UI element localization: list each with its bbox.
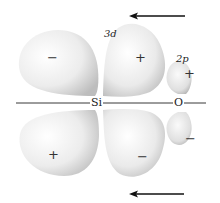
- 3d-orbital-label: 3d: [104, 29, 117, 39]
- sign-bottom-right: −: [137, 150, 148, 163]
- d-lobe-bottom-left: [19, 110, 99, 176]
- sign-p-bottom: −: [185, 132, 196, 145]
- top-arrow-icon: [129, 13, 185, 20]
- sign-p-top: +: [184, 67, 195, 80]
- d-lobe-bottom-right: [103, 109, 165, 177]
- sign-bottom-left: +: [48, 148, 59, 161]
- sign-top-left: −: [47, 51, 58, 64]
- 2p-orbital-label: 2p: [176, 54, 189, 64]
- pi-bonding-diagram: Si O 3d 2p − + + − + −: [0, 0, 220, 203]
- bottom-arrow-icon: [129, 191, 184, 198]
- o-atom-label: O: [173, 97, 184, 108]
- sign-top-right: +: [135, 51, 146, 64]
- si-atom-label: Si: [90, 97, 103, 108]
- d-lobe-top-left: [19, 30, 99, 96]
